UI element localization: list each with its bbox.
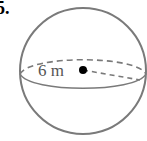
center-point xyxy=(79,66,87,74)
radius-line-dashed xyxy=(83,70,140,80)
sphere-diagram: 6 m xyxy=(0,0,147,141)
radius-label: 6 m xyxy=(38,61,64,80)
